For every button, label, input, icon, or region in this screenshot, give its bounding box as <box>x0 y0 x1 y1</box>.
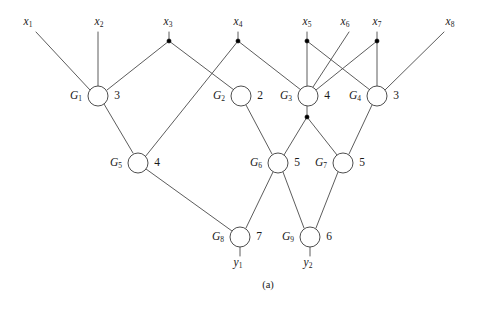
gate-node-g5[interactable] <box>128 153 148 173</box>
gate-value-g7: 5 <box>359 157 365 169</box>
fanout-dot-x4 <box>236 39 240 43</box>
gate-label-g4: G4 <box>349 90 361 102</box>
circuit-diagram-figure: x1x2x3x4x5x6x7x8y1y2G13G22G34G43G54G65G7… <box>0 0 477 309</box>
gate-value-g3: 4 <box>324 90 330 102</box>
wire-x1-to-G1 <box>36 32 90 90</box>
output-label-y2: y2 <box>304 257 313 269</box>
input-label-x5: x5 <box>303 16 312 28</box>
gate-node-g3[interactable] <box>298 86 318 106</box>
wire-x6-to-G3 <box>313 32 349 87</box>
gate-value-g8: 7 <box>256 231 262 243</box>
input-label-x4: x4 <box>234 16 243 28</box>
gate-node-g7[interactable] <box>333 153 353 173</box>
gate-value-g9: 6 <box>326 231 332 243</box>
input-label-x7: x7 <box>373 16 382 28</box>
wire-G6-to-G8 <box>246 172 273 228</box>
gate-node-g6[interactable] <box>268 153 288 173</box>
gate-circles-layer <box>88 86 387 247</box>
fanout-dot-x5 <box>305 39 309 43</box>
wire-dot-g3-out-to-G6 <box>284 117 307 155</box>
wire-G1-to-G5 <box>104 104 133 153</box>
output-label-y1: y1 <box>234 257 243 269</box>
gate-label-g8: G8 <box>212 231 224 243</box>
gate-label-g6: G6 <box>250 157 262 169</box>
gate-label-g1: G1 <box>70 90 82 102</box>
gate-label-g2: G2 <box>213 90 225 102</box>
fanout-dot-g3-out <box>305 115 309 119</box>
wire-dot-x7-to-G3 <box>316 41 377 90</box>
gate-value-g6: 5 <box>294 157 300 169</box>
input-label-x6: x6 <box>341 16 350 28</box>
input-label-x3: x3 <box>164 16 173 28</box>
wire-G6-to-G9 <box>283 172 304 228</box>
wires-layer <box>36 32 444 256</box>
fanout-dots-layer <box>167 39 379 119</box>
gate-label-g7: G7 <box>315 157 327 169</box>
gate-node-g1[interactable] <box>88 86 108 106</box>
wire-dot-x3-to-G1 <box>107 41 169 90</box>
wire-G2-to-G6 <box>246 105 272 154</box>
input-label-x2: x2 <box>95 16 104 28</box>
gate-label-g9: G9 <box>282 231 294 243</box>
fanout-dot-x3 <box>167 39 171 43</box>
gate-value-g4: 3 <box>393 90 399 102</box>
gate-value-g1: 3 <box>114 90 120 102</box>
figure-caption: (a) <box>262 280 274 291</box>
gate-label-g5: G5 <box>110 157 122 169</box>
gate-value-g2: 2 <box>257 90 263 102</box>
wire-dot-g3-out-to-G7 <box>307 117 337 155</box>
wire-x8-to-G4 <box>385 32 444 90</box>
input-label-x8: x8 <box>446 16 455 28</box>
gate-node-g2[interactable] <box>231 86 251 106</box>
input-label-x1: x1 <box>24 16 33 28</box>
wire-dot-x3-to-G2 <box>169 41 234 90</box>
wire-G5-to-G8 <box>146 169 232 231</box>
wire-dot-x4-to-G3 <box>238 41 301 90</box>
wire-G4-to-G7 <box>349 105 372 154</box>
gate-value-g5: 4 <box>154 157 160 169</box>
gate-node-g8[interactable] <box>230 227 250 247</box>
gate-node-g9[interactable] <box>300 227 320 247</box>
fanout-dot-x7 <box>375 39 379 43</box>
wire-G7-to-G9 <box>316 172 338 228</box>
gate-node-g4[interactable] <box>367 86 387 106</box>
gate-label-g3: G3 <box>280 90 292 102</box>
